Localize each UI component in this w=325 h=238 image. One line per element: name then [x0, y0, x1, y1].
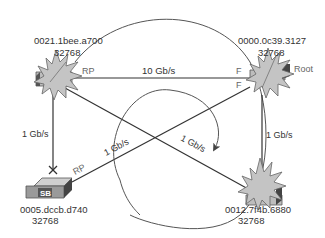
stp-topology-diagram: 0021.1bee.a700 32768 RP 0000.0c39.3127 3… [0, 0, 325, 238]
sa-mac-label: 0021.1bee.a700 [34, 35, 103, 46]
sb-priority-label: 32768 [32, 215, 58, 226]
sb-name-label: SB [40, 189, 51, 198]
root-port-label-bottom: F [236, 80, 242, 90]
link-sa-root-speed: 10 Gb/s [142, 65, 176, 76]
link-sb-root [72, 87, 250, 182]
switch-sb[interactable]: SB [26, 178, 72, 198]
root-port-label-top: F [236, 66, 242, 76]
inner-flow-arc-tail [120, 180, 140, 215]
link-root-sd-speed: 1 Gb/s [266, 130, 293, 140]
root-priority-label: 32768 [258, 47, 284, 58]
sa-port-label: RP [82, 66, 95, 76]
link-sa-sb-speed: 1 Gb/s [22, 129, 49, 139]
sb-port-label: RP [71, 162, 87, 177]
link-sa-sd-speed: 1 Gb/s [179, 133, 208, 155]
sa-priority-label: 32768 [54, 47, 80, 58]
root-mac-label: 0000.0c39.3127 [238, 35, 306, 46]
outer-flow-arc [75, 19, 266, 228]
sb-mac-label: 0005.dccb.d740 [20, 204, 88, 215]
sd-mac-label: 0012.7f4b.6880 [225, 204, 291, 215]
link-sb-root-speed: 1 Gb/s [102, 136, 131, 158]
root-role-label: Root [294, 64, 314, 74]
switch-sd[interactable] [238, 158, 286, 210]
link-sa-sd [65, 88, 250, 190]
sd-priority-label: 32768 [238, 215, 264, 226]
inner-flow-arc [114, 90, 219, 180]
